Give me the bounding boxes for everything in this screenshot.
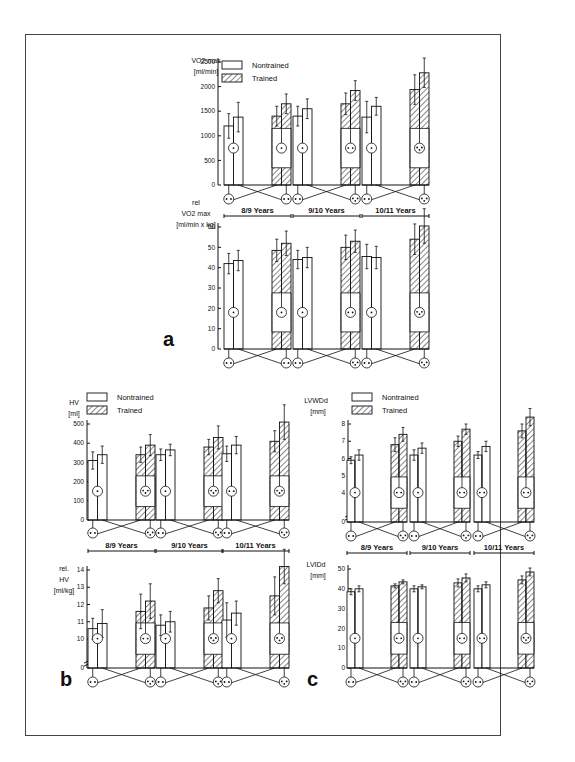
face-icon xyxy=(350,488,360,498)
group-label: 10/11 Years xyxy=(235,541,275,550)
chart-c-bottom: 01020304050LVIDd[mm] xyxy=(307,561,535,687)
face-icon xyxy=(275,634,285,644)
legend-label-trained: Trained xyxy=(252,74,277,83)
y-tick-label: 10 xyxy=(338,644,346,651)
bar-nontrained-pre xyxy=(224,264,234,349)
bar-nontrained-pre xyxy=(474,589,482,668)
face-icon xyxy=(415,143,425,153)
face-icon xyxy=(415,307,425,317)
face-icon-pre xyxy=(409,677,419,687)
face-icon-post xyxy=(350,358,360,368)
face-icon xyxy=(457,488,467,498)
chart-a-top: 05001000150020002500VO2 max[ml/min]Nontr… xyxy=(191,57,429,218)
y-tick-label: 0 xyxy=(80,664,84,671)
group-label: 9/10 Years xyxy=(171,541,208,550)
face-icon-pre xyxy=(409,531,419,541)
face-icon-post xyxy=(281,194,291,204)
group-label: 8/9 Years xyxy=(241,206,273,215)
face-icon xyxy=(346,307,356,317)
y-tick-label: 14 xyxy=(77,566,85,573)
y-axis-label: VO2 max xyxy=(181,210,211,217)
y-axis-label: [ml/min x kg] xyxy=(176,221,215,229)
face-icon xyxy=(227,634,237,644)
bar-nontrained-post xyxy=(232,445,242,520)
face-icon-post xyxy=(461,677,471,687)
face-icon xyxy=(477,488,487,498)
face-icon-pre xyxy=(156,677,166,687)
face-icon-post xyxy=(398,531,408,541)
legend-swatch-nontrained xyxy=(87,393,107,401)
y-tick-label: 500 xyxy=(204,157,215,164)
group-label: 8/9 Years xyxy=(105,541,137,550)
y-tick-label: 40 xyxy=(208,264,216,271)
y-tick-label: 12 xyxy=(77,601,85,608)
face-icon-post xyxy=(419,358,429,368)
chart-b-bottom: 01011121314rel.HV[ml/kg] xyxy=(54,549,290,687)
y-tick-label: 50 xyxy=(208,244,216,251)
face-icon-pre xyxy=(224,194,234,204)
y-tick-label: 7 xyxy=(341,437,345,444)
face-icon xyxy=(298,143,308,153)
bar-nontrained-pre xyxy=(347,592,355,668)
group-label: 8/9 Years xyxy=(361,543,393,552)
y-tick-label: 20 xyxy=(208,305,216,312)
face-icon xyxy=(227,486,237,496)
face-icon xyxy=(277,307,287,317)
legend-label-trained: Trained xyxy=(117,406,142,415)
face-icon-pre xyxy=(346,531,356,541)
face-icon-post xyxy=(398,677,408,687)
face-icon xyxy=(141,634,151,644)
y-tick-label: 50 xyxy=(338,565,346,572)
face-icon-post xyxy=(525,677,535,687)
face-icon xyxy=(367,143,377,153)
y-axis-label: [ml] xyxy=(68,410,79,418)
face-icon xyxy=(367,307,377,317)
bar-nontrained-post xyxy=(418,448,426,522)
y-axis-label: [ml/min] xyxy=(194,68,219,76)
bar-nontrained-post xyxy=(303,258,313,350)
y-axis-label: VO2 max xyxy=(191,57,221,64)
face-icon-post xyxy=(279,528,289,538)
legend-swatch-nontrained xyxy=(352,393,372,401)
y-tick-label: 10 xyxy=(208,325,216,332)
y-axis-label: [ml/kg] xyxy=(54,587,75,595)
legend-swatch-nontrained xyxy=(222,61,242,69)
face-icon xyxy=(93,486,103,496)
face-icon-pre xyxy=(222,677,232,687)
y-tick-label: 300 xyxy=(73,459,84,466)
y-axis-label: [mm] xyxy=(310,408,326,416)
face-icon xyxy=(161,486,171,496)
y-tick-label: 0 xyxy=(341,518,345,525)
face-icon-post xyxy=(279,677,289,687)
bar-nontrained-post xyxy=(482,446,490,522)
face-icon-pre xyxy=(222,528,232,538)
face-icon xyxy=(413,633,423,643)
face-icon xyxy=(209,634,219,644)
face-icon-post xyxy=(281,358,291,368)
face-icon xyxy=(346,143,356,153)
y-tick-label: 0 xyxy=(341,664,345,671)
group-label: 10/11 Years xyxy=(484,543,524,552)
y-tick-label: 11 xyxy=(77,618,84,625)
bar-nontrained-post xyxy=(234,261,244,349)
legend-swatch-trained xyxy=(222,74,242,82)
face-icon-pre xyxy=(473,531,483,541)
legend-label-nontrained: Nontrained xyxy=(252,61,289,70)
face-icon xyxy=(161,634,171,644)
bar-nontrained-post xyxy=(372,258,382,350)
face-icon-pre xyxy=(346,677,356,687)
face-icon-post xyxy=(461,531,471,541)
face-icon-pre xyxy=(224,358,234,368)
y-axis-label: LVIDd xyxy=(307,561,326,568)
face-icon-pre xyxy=(293,358,303,368)
y-tick-label: 6 xyxy=(341,455,345,462)
y-tick-label: 0 xyxy=(80,516,84,523)
face-icon xyxy=(350,633,360,643)
bar-nontrained-post xyxy=(166,450,176,520)
group-label: 9/10 Years xyxy=(422,543,459,552)
y-tick-label: 100 xyxy=(73,497,84,504)
y-tick-label: 30 xyxy=(338,605,346,612)
y-tick-label: 200 xyxy=(73,478,84,485)
y-tick-label: 4 xyxy=(341,489,345,496)
group-label: 9/10 Years xyxy=(308,206,345,215)
